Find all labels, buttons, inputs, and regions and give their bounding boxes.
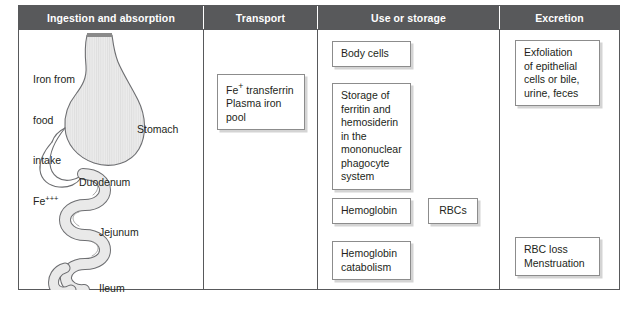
exfoliation-box: Exfoliation of epithelial cells or bile,… xyxy=(515,40,600,106)
storage-line4: in the xyxy=(341,130,403,144)
rbcs-label: RBCs xyxy=(429,204,477,218)
column-header-excretion: Excretion xyxy=(500,6,619,29)
column-transport: Fe+ transferrin Plasma iron pool xyxy=(204,30,318,290)
storage-line5: mononuclear xyxy=(341,143,403,157)
catabolism-line2: catabolism xyxy=(341,261,403,275)
storage-line1: Storage of xyxy=(341,89,403,103)
transferrin-box: Fe+ transferrin Plasma iron pool xyxy=(217,74,305,130)
jejunum-label: Jejunum xyxy=(99,226,139,240)
storage-line2: ferritin and xyxy=(341,103,403,117)
gi-tract-illustration xyxy=(19,30,204,290)
plasma-iron-pool-line: Plasma iron pool xyxy=(226,97,297,124)
rbc-loss-line1: RBC loss xyxy=(524,243,592,257)
column-header-use-or-storage: Use or storage xyxy=(318,6,500,29)
body-cells-box: Body cells xyxy=(332,41,411,67)
rbcs-box: RBCs xyxy=(428,198,478,224)
catabolism-line1: Hemoglobin xyxy=(341,247,403,261)
storage-line3: hemosiderin xyxy=(341,116,403,130)
transferrin-iron-symbol: Fe xyxy=(226,84,238,96)
duodenum-label: Duodenum xyxy=(79,176,130,190)
storage-line6: phagocyte xyxy=(341,157,403,171)
column-header-ingestion: Ingestion and absorption xyxy=(19,6,204,29)
column-ingestion-and-absorption: Iron from food intake Fe+++ xyxy=(19,30,204,290)
rbc-loss-line2: Menstruation xyxy=(524,257,592,271)
storage-line7: system xyxy=(341,170,403,184)
column-excretion: Exfoliation of epithelial cells or bile,… xyxy=(500,30,619,290)
body-cells-label: Body cells xyxy=(341,47,403,61)
iron-metabolism-figure: Ingestion and absorption Transport Use o… xyxy=(18,5,620,290)
hemoglobin-label: Hemoglobin xyxy=(341,204,403,218)
exfoliation-line4: urine, feces xyxy=(524,87,592,101)
column-header-ingestion-label: Ingestion and absorption xyxy=(47,12,175,24)
column-header-use-or-storage-label: Use or storage xyxy=(371,12,446,24)
exfoliation-line2: of epithelial xyxy=(524,60,592,74)
rbc-loss-box: RBC loss Menstruation xyxy=(515,237,600,276)
column-header-transport-label: Transport xyxy=(236,12,285,24)
ileum-label: Ileum xyxy=(99,282,125,296)
transferrin-line: Fe+ transferrin xyxy=(226,80,297,97)
column-header-row: Ingestion and absorption Transport Use o… xyxy=(19,6,619,30)
stomach-shape xyxy=(52,35,145,165)
hemoglobin-catabolism-box: Hemoglobin catabolism xyxy=(332,241,411,280)
hemoglobin-box: Hemoglobin xyxy=(332,198,411,224)
figure-body-row: Iron from food intake Fe+++ xyxy=(19,30,619,290)
column-header-excretion-label: Excretion xyxy=(535,12,584,24)
column-header-transport: Transport xyxy=(204,6,318,29)
exfoliation-line3: cells or bile, xyxy=(524,73,592,87)
storage-box: Storage of ferritin and hemosiderin in t… xyxy=(332,83,411,190)
stomach-label: Stomach xyxy=(137,123,178,137)
exfoliation-line1: Exfoliation xyxy=(524,46,592,60)
column-use-or-storage: Body cells Storage of ferritin and hemos… xyxy=(318,30,500,290)
transferrin-text: transferrin xyxy=(243,84,293,96)
